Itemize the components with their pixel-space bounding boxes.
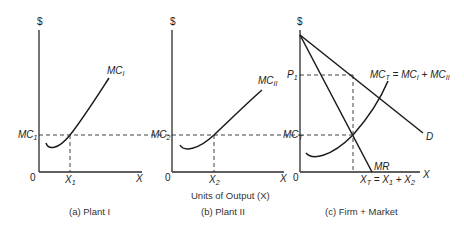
panel-b-mc2-curve: [180, 90, 262, 149]
panel-c-mct-curve: [306, 81, 388, 157]
panel-a-plant-1: $ 0 X MCI MC1 X1 (a) Plant I: [18, 16, 172, 217]
panel-c-caption: (c) Firm + Market: [325, 206, 398, 217]
panel-a-x-axis-label: X: [135, 173, 143, 184]
panel-b-origin-label: 0: [165, 172, 171, 183]
panel-c-y-axis-label: $: [297, 16, 303, 27]
shared-x-axis-title: Units of Output (X): [191, 190, 270, 201]
panel-c-p1-label: P1: [287, 69, 298, 81]
panel-b-x2-label: X2: [208, 174, 220, 186]
panel-a-mc1-level-label: MC1: [18, 129, 38, 141]
panel-a-mc1-label: MCI: [107, 65, 125, 77]
panel-c-mct-sum-label: MCT = MCI + MCII: [370, 69, 450, 81]
panel-b-caption: (b) Plant II: [201, 206, 245, 217]
multiplant-firm-diagram: $ 0 X MCI MC1 X1 (a) Plant I $ 0 X MCII …: [0, 0, 464, 232]
panel-b-plant-2: $ 0 X MCII MC2 X2 Units of Output (X) (b…: [151, 16, 300, 217]
panel-b-mc2-label: MCII: [258, 75, 278, 87]
panel-c-demand-curve: [300, 35, 423, 133]
panel-b-y-axis-label: $: [170, 16, 176, 27]
panel-c-mr-label: MR: [374, 161, 390, 172]
panel-c-mr-curve: [300, 35, 372, 172]
panel-c-x-axis-label: X: [422, 169, 430, 180]
panel-c-xt-label: XT = X1 + X2: [359, 174, 415, 186]
panel-b-mc2-level-label: MC2: [151, 129, 171, 141]
panel-c-firm-market: $ 0 X D MR MCT = MCI + MCII P1 MCT XT = …: [283, 16, 450, 217]
panel-c-origin-label: 0: [293, 172, 299, 183]
panel-c-demand-label: D: [426, 131, 433, 142]
panel-a-mc1-curve: [46, 78, 109, 148]
panel-b-x-axis-label: X: [279, 173, 287, 184]
panel-a-caption: (a) Plant I: [69, 206, 110, 217]
panel-a-y-axis-label: $: [37, 16, 43, 27]
panel-a-origin-label: 0: [30, 172, 36, 183]
panel-a-x1-label: X1: [64, 174, 76, 186]
